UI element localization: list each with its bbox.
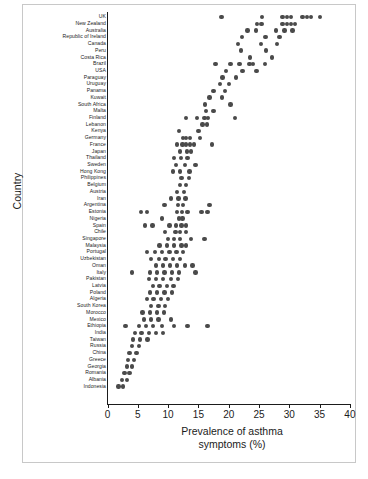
data-point xyxy=(290,28,294,32)
data-point xyxy=(228,102,232,106)
x-tick-0 xyxy=(108,404,109,408)
data-point xyxy=(184,183,188,187)
data-point xyxy=(155,290,159,294)
scatter-dot-layer xyxy=(0,0,368,479)
data-point xyxy=(175,263,179,267)
data-point xyxy=(228,62,232,66)
data-point xyxy=(145,297,149,301)
data-point xyxy=(155,270,159,274)
data-point xyxy=(166,237,170,241)
x-tick-10 xyxy=(168,404,169,408)
data-point xyxy=(173,230,177,234)
data-point xyxy=(205,210,209,214)
data-point xyxy=(218,82,222,86)
data-point xyxy=(125,364,129,368)
data-point xyxy=(234,75,238,79)
data-point xyxy=(157,284,161,288)
data-point xyxy=(203,102,207,106)
data-point xyxy=(148,290,152,294)
x-axis-title: Prevalence of asthma symptoms (%) xyxy=(107,425,357,451)
x-tick-25 xyxy=(259,404,260,408)
data-point xyxy=(179,156,183,160)
data-point xyxy=(178,149,182,153)
data-point xyxy=(145,210,149,214)
data-point xyxy=(163,257,167,261)
data-point xyxy=(149,257,153,261)
data-point xyxy=(174,250,178,254)
data-point xyxy=(131,337,135,341)
data-point xyxy=(260,15,264,19)
data-point xyxy=(162,290,166,294)
x-tick-40 xyxy=(350,404,351,408)
data-point xyxy=(138,337,142,341)
data-point xyxy=(188,136,192,140)
x-tick-15 xyxy=(198,404,199,408)
data-point xyxy=(187,169,191,173)
data-point xyxy=(168,263,172,267)
x-tick-5 xyxy=(138,404,139,408)
data-point xyxy=(207,203,211,207)
data-point xyxy=(156,317,160,321)
data-point xyxy=(213,62,217,66)
x-tick-label-40: 40 xyxy=(335,409,365,420)
data-point xyxy=(122,371,126,375)
data-point xyxy=(185,210,189,214)
y-axis-title: Country xyxy=(11,146,23,236)
data-point xyxy=(130,344,134,348)
data-point xyxy=(151,324,155,328)
data-point xyxy=(169,277,173,281)
data-point xyxy=(263,62,267,66)
data-point xyxy=(149,317,153,321)
data-point xyxy=(178,230,182,234)
data-point xyxy=(254,28,258,32)
data-point xyxy=(144,324,148,328)
data-point xyxy=(169,317,173,321)
data-point xyxy=(160,324,164,328)
data-point xyxy=(172,156,176,160)
x-tick-label-20: 20 xyxy=(214,409,244,420)
data-point xyxy=(184,223,188,227)
data-point xyxy=(148,270,152,274)
data-point xyxy=(175,142,179,146)
x-tick-30 xyxy=(289,404,290,408)
data-point xyxy=(134,351,138,355)
data-point xyxy=(205,122,209,126)
data-point xyxy=(237,62,241,66)
data-point xyxy=(121,384,125,388)
data-point xyxy=(183,196,187,200)
x-tick-label-15: 15 xyxy=(183,409,213,420)
data-point xyxy=(233,116,237,120)
data-point xyxy=(143,223,147,227)
data-point xyxy=(139,210,143,214)
data-point xyxy=(187,176,191,180)
data-point xyxy=(178,183,182,187)
data-point xyxy=(169,196,173,200)
data-point xyxy=(259,22,263,26)
data-point xyxy=(170,270,174,274)
data-point xyxy=(195,116,199,120)
data-point xyxy=(151,284,155,288)
data-point xyxy=(150,223,154,227)
data-point xyxy=(219,15,223,19)
data-point xyxy=(184,116,188,120)
data-point xyxy=(251,62,255,66)
data-point xyxy=(211,109,215,113)
data-point xyxy=(179,243,183,247)
data-point xyxy=(202,237,206,241)
data-point xyxy=(192,142,196,146)
data-point xyxy=(206,116,210,120)
data-point xyxy=(154,277,158,281)
data-point xyxy=(157,257,161,261)
data-point xyxy=(245,28,249,32)
data-point xyxy=(171,169,175,173)
x-tick-35 xyxy=(320,404,321,408)
data-point xyxy=(185,324,189,328)
x-tick-label-30: 30 xyxy=(274,409,304,420)
data-point xyxy=(148,310,152,314)
data-point xyxy=(162,203,166,207)
data-point xyxy=(170,290,174,294)
data-point xyxy=(133,331,137,335)
data-point xyxy=(172,324,176,328)
data-point xyxy=(176,196,180,200)
data-point xyxy=(161,263,165,267)
